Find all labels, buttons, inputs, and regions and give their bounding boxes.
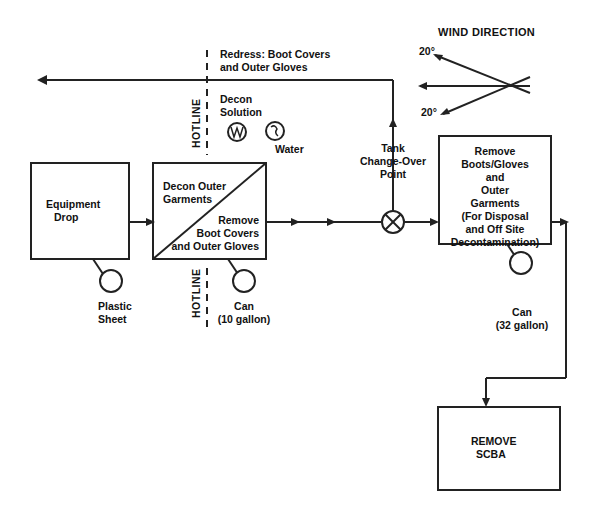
- decon-outer-garments-label: Decon Outer Garments: [163, 180, 226, 206]
- wind-angle-bottom-label: 20°: [421, 106, 437, 119]
- water-label: Water: [275, 143, 304, 156]
- plastic-sheet-label: Plastic Sheet: [98, 300, 132, 326]
- can-32-gallon-icon: [510, 252, 532, 274]
- can-32-line-1: Can: [490, 306, 554, 319]
- arrow-right-icon: [560, 218, 569, 226]
- remove-boots-line-6: (For Disposal: [443, 210, 547, 223]
- wind-direction-title: WIND DIRECTION: [438, 26, 535, 39]
- decon-upper-line-2: Garments: [163, 193, 226, 206]
- tank-change-over-label: Tank Change-Over Point: [355, 142, 431, 181]
- decon-lower-line-1: Remove: [170, 214, 259, 227]
- decon-lower-line-2: Boot Covers: [170, 227, 259, 240]
- wind-arrow-down-icon: [440, 108, 450, 115]
- equipment-drop-line-1: Equipment: [46, 198, 100, 211]
- arrow-right-icon: [291, 218, 300, 226]
- plastic-sheet-line-1: Plastic: [98, 300, 132, 313]
- decon-lower-line-3: and Outer Gloves: [170, 240, 259, 253]
- remove-scba-line-1: REMOVE: [471, 435, 517, 448]
- remove-boots-line-8: Decontamination): [443, 236, 547, 249]
- remove-scba-line-2: SCBA: [471, 448, 517, 461]
- tank-line-1: Tank: [355, 142, 431, 155]
- decon-solution-line-1: Decon: [220, 93, 262, 106]
- can-10-line-2: (10 gallon): [212, 313, 276, 326]
- tank-line-2: Change-Over: [355, 155, 431, 168]
- decon-solution-tub-icon: [228, 123, 246, 141]
- equipment-drop-line-2: Drop: [46, 211, 100, 224]
- remove-boots-line-5: Garments: [443, 197, 547, 210]
- wind-arrow-center-icon: [418, 82, 427, 90]
- decon-solution-line-2: Solution: [220, 106, 262, 119]
- plastic-sheet-icon: [100, 270, 122, 292]
- can-32-line-2: (32 gallon): [490, 319, 554, 332]
- redress-line-1: Redress: Boot Covers: [220, 48, 330, 61]
- wind-angle-top-label: 20°: [419, 45, 435, 58]
- arrow-right-icon: [327, 218, 336, 226]
- remove-boots-line-2: Boots/Gloves: [443, 158, 547, 171]
- remove-boots-line-4: Outer: [443, 184, 547, 197]
- can-10-line-1: Can: [212, 300, 276, 313]
- arrow-left-icon: [37, 75, 47, 85]
- arrow-right-icon: [430, 218, 439, 226]
- remove-boots-line-3: and: [443, 171, 547, 184]
- remove-boots-line-1: Remove: [443, 145, 547, 158]
- remove-boots-line-7: and Off Site: [443, 223, 547, 236]
- redress-line-2: and Outer Gloves: [220, 61, 330, 74]
- can-32-gallon-label: Can (32 gallon): [490, 306, 554, 332]
- decon-solution-label: Decon Solution: [220, 93, 262, 119]
- equipment-drop-label: Equipment Drop: [46, 198, 100, 224]
- remove-boot-covers-label: Remove Boot Covers and Outer Gloves: [170, 214, 259, 253]
- hotline-label-bottom: HOTLINE: [190, 268, 202, 318]
- can-10-gallon-label: Can (10 gallon): [212, 300, 276, 326]
- plastic-sheet-line-2: Sheet: [98, 313, 132, 326]
- hotline-label-top: HOTLINE: [190, 98, 202, 148]
- remove-boots-label: Remove Boots/Gloves and Outer Garments (…: [443, 145, 547, 249]
- decon-upper-line-1: Decon Outer: [163, 180, 226, 193]
- arrow-up-icon: [389, 118, 397, 127]
- redress-label: Redress: Boot Covers and Outer Gloves: [220, 48, 330, 74]
- tank-line-3: Point: [355, 168, 431, 181]
- can-10-gallon-icon: [233, 270, 255, 292]
- water-tub-icon: [266, 122, 284, 140]
- remove-scba-label: REMOVE SCBA: [471, 435, 517, 461]
- tank-change-over-valve-icon: [382, 198, 404, 233]
- arrow-down-icon: [482, 398, 490, 407]
